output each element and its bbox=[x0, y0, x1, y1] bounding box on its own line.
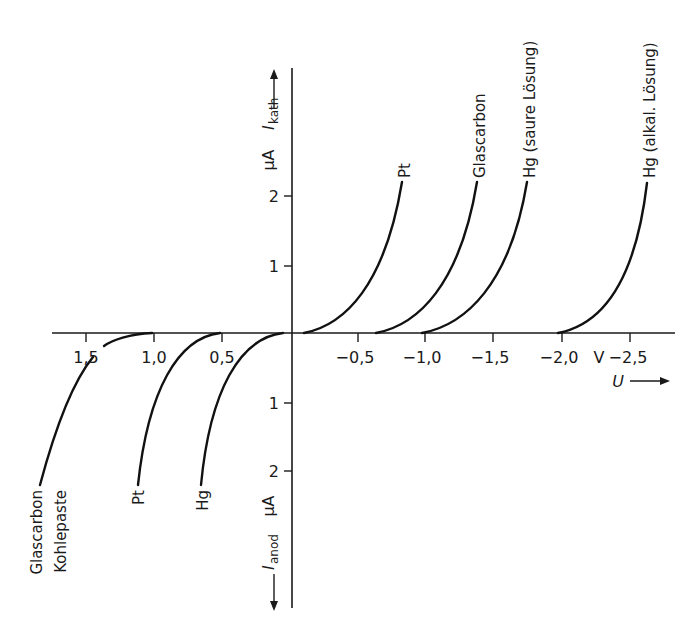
x-ticks-left: 1,5 1,0 0,5 bbox=[73, 333, 234, 367]
label-pt-anodic: Pt bbox=[130, 490, 148, 505]
y-top-label: µA I kath bbox=[259, 98, 281, 171]
y-bottom-unit: µA bbox=[259, 495, 278, 516]
label-kohlepaste-anodic: Kohlepaste bbox=[52, 490, 70, 573]
x-tick-label: 0,5 bbox=[209, 348, 234, 367]
label-hg-anodic: Hg bbox=[194, 490, 212, 511]
x-tick-label: −2,5 bbox=[609, 348, 648, 367]
y-bottom-symbol: I bbox=[259, 565, 278, 570]
y-top-symbol: I bbox=[259, 125, 278, 130]
y-tick-label: 2 bbox=[269, 462, 279, 481]
curve-glascarbon-anodic-upper bbox=[104, 333, 152, 346]
label-glascarbon-cathodic: Glascarbon bbox=[471, 93, 489, 178]
y-bottom-subscript: anod bbox=[267, 534, 281, 564]
curve-pt-cathodic bbox=[304, 182, 402, 333]
curve-hg-alkaline-cathodic bbox=[558, 183, 647, 333]
label-glascarbon-anodic: Glascarbon bbox=[28, 490, 46, 575]
y-bottom-label: µA I anod bbox=[259, 495, 281, 570]
x-unit-label: V bbox=[594, 348, 605, 367]
y-top-unit: µA bbox=[259, 149, 278, 170]
y-ticks-bottom: 1 2 bbox=[269, 394, 292, 481]
y-ticks-top: 1 2 bbox=[269, 187, 292, 276]
y-tick-label: 2 bbox=[269, 187, 279, 206]
x-tick-label: −1,5 bbox=[471, 348, 510, 367]
label-hg-alkaline: Hg (alkal. Lösung) bbox=[641, 42, 659, 178]
x-axis-symbol: U bbox=[612, 372, 624, 391]
x-tick-label: −2,0 bbox=[540, 348, 579, 367]
y-tick-label: 1 bbox=[269, 257, 279, 276]
curve-glascarbon-cathodic bbox=[376, 182, 477, 333]
label-hg-acid: Hg (saure Lösung) bbox=[521, 41, 539, 178]
x-tick-label: 1,5 bbox=[73, 348, 98, 367]
x-tick-label: 1,0 bbox=[141, 348, 166, 367]
curve-glascarbon-anodic-lower bbox=[40, 357, 93, 485]
y-tick-label: 1 bbox=[269, 394, 279, 413]
voltammetry-chart: 1,5 1,0 0,5 −0,5 −1,0 −1,5 −2,0 −2,5 V U… bbox=[0, 0, 698, 630]
label-pt-cathodic: Pt bbox=[396, 163, 414, 178]
x-ticks-right: −0,5 −1,0 −1,5 −2,0 −2,5 V bbox=[336, 333, 648, 367]
x-tick-label: −0,5 bbox=[336, 348, 375, 367]
x-tick-label: −1,0 bbox=[403, 348, 442, 367]
curve-hg-acid-cathodic bbox=[422, 182, 527, 333]
